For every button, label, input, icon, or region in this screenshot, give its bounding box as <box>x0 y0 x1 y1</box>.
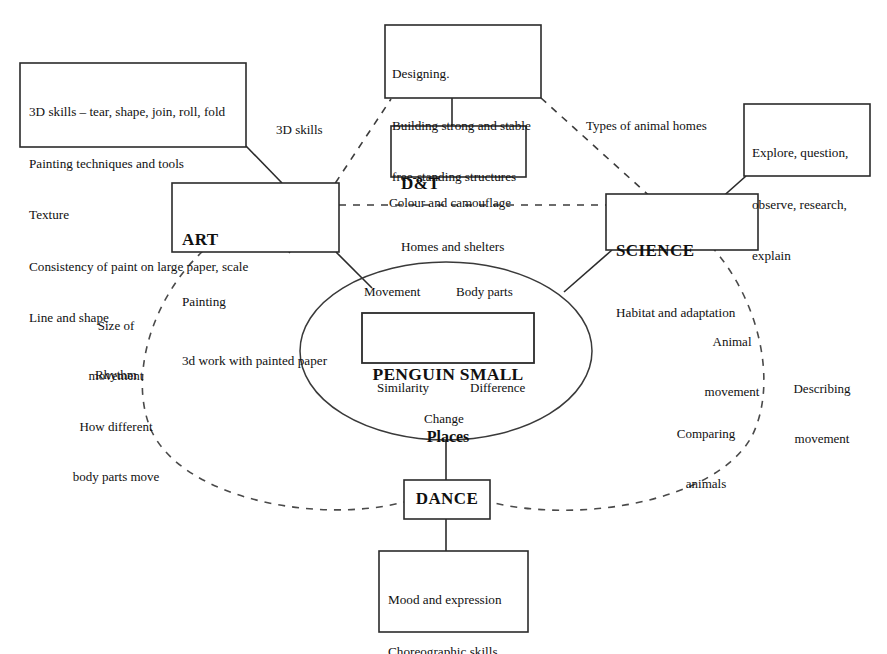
concept-rhythm-line-1: Rhythm <box>66 367 166 384</box>
concept-how-body-parts-move-line-1: How different <box>48 419 184 436</box>
label-colour-and-camouflage: Colour and camouflage <box>389 195 511 212</box>
core-title-text: PENGUIN SMALL Places <box>362 321 534 489</box>
concept-comparing-animals: Comparing animals <box>658 392 754 527</box>
science-details-line-3: explain <box>752 247 870 264</box>
concept-describing-movement-line-2: movement <box>770 431 874 448</box>
concept-describing-movement-line-1: Describing <box>770 381 874 398</box>
science-details-line-1: Explore, question, <box>752 144 870 161</box>
connector-dt-details-to-science-dashed <box>541 98 654 200</box>
dt-box-text: D&T Homes and shelters <box>401 131 521 297</box>
concept-animal-movement-line-1: Animal <box>684 334 780 351</box>
concept-comparing-animals-line-2: animals <box>658 476 754 493</box>
label-types-of-animal-homes: Types of animal homes <box>586 118 707 135</box>
science-details-text: Explore, question, observe, research, ex… <box>752 110 870 299</box>
connector-art-details-to-art <box>246 146 282 183</box>
concept-how-body-parts-move: How different body parts move <box>48 385 184 520</box>
connector-science-to-core <box>564 250 612 292</box>
dt-details-line-1: Designing. <box>392 65 540 82</box>
concept-body-parts: Body parts <box>456 284 513 301</box>
dt-subline-1: Homes and shelters <box>401 238 521 255</box>
concept-movement: Movement <box>364 284 420 301</box>
core-subtitle: Places <box>362 427 534 448</box>
dance-details-text: Mood and expression Choreographic skills… <box>388 557 528 654</box>
concept-how-body-parts-move-line-2: body parts move <box>48 469 184 486</box>
dt-heading: D&T <box>401 173 521 195</box>
topic-web-diagram: 3D skills – tear, shape, join, roll, fol… <box>0 0 887 654</box>
art-heading: ART <box>182 229 334 251</box>
concept-comparing-animals-line-1: Comparing <box>658 426 754 443</box>
concept-describing-movement: Describing movement <box>770 347 874 482</box>
dance-details-line-1: Mood and expression <box>388 591 528 608</box>
core-title: PENGUIN SMALL <box>362 363 534 386</box>
art-details-line-2: Painting techniques and tools <box>29 155 249 172</box>
science-heading: SCIENCE <box>616 240 758 262</box>
art-details-line-1: 3D skills – tear, shape, join, roll, fol… <box>29 103 249 120</box>
science-details-line-2: observe, research, <box>752 196 870 213</box>
art-box-text: ART Painting 3d work with painted paper <box>182 187 334 411</box>
dance-details-line-2: Choreographic skills <box>388 643 528 654</box>
art-subline-2: 3d work with painted paper <box>182 352 334 369</box>
label-3d-skills: 3D skills <box>276 122 323 139</box>
art-subline-1: Painting <box>182 293 334 310</box>
dance-heading: DANCE <box>404 488 490 510</box>
